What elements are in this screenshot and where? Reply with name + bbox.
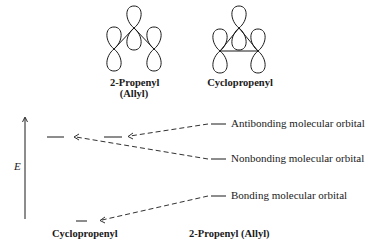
energy-axis: [23, 117, 28, 219]
allyl-title-line2: (Allyl): [110, 88, 158, 99]
cyclopropenyl-title: Cyclopropenyl: [206, 77, 274, 88]
allyl-title-line1: 2-Propenyl: [110, 77, 158, 88]
allyl-bottom-label: 2-Propenyl (Allyl): [189, 228, 270, 239]
allyl-title: 2-Propenyl (Allyl): [110, 77, 158, 99]
energy-axis-label: E: [14, 160, 21, 172]
antibonding-label: Antibonding molecular orbital: [231, 117, 365, 129]
allyl-orbital-drawing: [107, 6, 161, 71]
nonbonding-label: Nonbonding molecular orbital: [231, 152, 364, 164]
dashed-arrows: [74, 124, 208, 223]
cyclopropenyl-levels: [47, 137, 87, 221]
cyclopropenyl-bottom-label: Cyclopropenyl: [52, 228, 118, 239]
bonding-label: Bonding molecular orbital: [231, 189, 347, 201]
cyclopropenyl-orbital-drawing: [213, 6, 265, 73]
reference-levels: [211, 124, 226, 196]
